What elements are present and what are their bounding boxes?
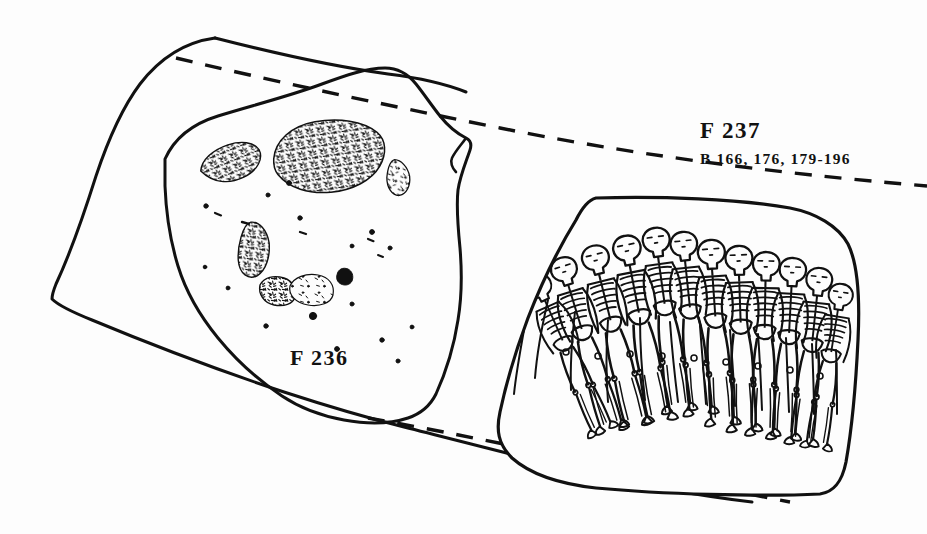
- bone-scatter-west: [195, 135, 266, 192]
- bone-scatter-east-speck: [337, 268, 353, 285]
- bone-scatter-group: [195, 113, 413, 363]
- feature-label-f237: F 237: [700, 118, 761, 144]
- bone-fragment-specks: [203, 181, 414, 363]
- bone-scatter-southwest-upper: [235, 221, 273, 280]
- bone-scatter-central-main: [269, 113, 390, 200]
- feature-label-f236: F 236: [290, 345, 349, 371]
- burial-numbers-label: B 166, 176, 179-196: [700, 150, 851, 168]
- figure-drawing: [0, 0, 927, 534]
- bone-scatter-east-sliver: [383, 159, 413, 198]
- archaeological-figure: F 237 B 166, 176, 179-196 F 236: [0, 0, 927, 534]
- bone-scatter-south-centre: [290, 274, 334, 305]
- outer-feature-outline-upper-right: [215, 38, 466, 92]
